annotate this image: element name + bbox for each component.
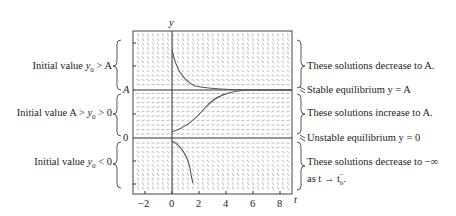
y-axis-label: y <box>169 17 174 29</box>
x-tick-label: 4 <box>223 198 228 210</box>
right-braces <box>297 40 305 190</box>
slope-field <box>136 33 289 189</box>
x-tick-label: −2 <box>138 198 149 210</box>
x-tick-label: 0 <box>169 198 174 210</box>
annotation-as-t-to-tb: as t → tb−. <box>307 169 346 189</box>
x-tick-label: 6 <box>250 198 255 210</box>
annotation-stable-equilibrium: Stable equilibrium y = A <box>307 84 411 96</box>
x-tick-label: 8 <box>277 198 282 210</box>
annotation-decrease-to-neg-infinity: These solutions decrease to −∞ <box>307 156 438 168</box>
y-mark-zero: 0 <box>123 132 128 144</box>
t-axis-label: t <box>294 194 297 206</box>
annotation-increase-to-A: These solutions increase to A. <box>307 107 433 119</box>
annotation-decrease-to-A: These solutions decrease to A. <box>307 60 434 72</box>
annotation-initial-between: Initial value A > y0 > 0 <box>17 107 112 123</box>
x-tick-label: 2 <box>196 198 201 210</box>
left-braces <box>113 40 121 188</box>
annotation-unstable-equilibrium: Unstable equilibrium y = 0 <box>307 132 420 144</box>
y-mark-A: A <box>123 84 129 96</box>
annotation-initial-above-A: Initial value y0 > A <box>33 60 112 76</box>
annotation-initial-below-0: Initial value y0 < 0 <box>34 156 112 172</box>
